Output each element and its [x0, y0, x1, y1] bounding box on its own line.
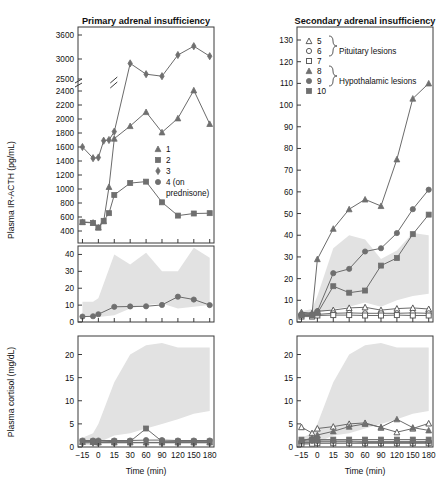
- legend-label-0: 1: [166, 145, 171, 154]
- normal-band-secondary-cortisol: [301, 343, 428, 445]
- y-label-primary: 600: [60, 213, 74, 222]
- y-secondary-acth-label: 30: [284, 253, 294, 262]
- x-primary-cortisol-label: 0: [96, 451, 101, 460]
- series-point-9: [331, 271, 336, 276]
- y-secondary-cortisol-label: 5: [288, 420, 293, 429]
- series-point-3: [96, 154, 100, 161]
- x-secondary-cortisol-label: 180: [422, 451, 436, 460]
- x-primary-cortisol-label: 90: [157, 451, 167, 460]
- series-point-2: [159, 200, 164, 205]
- series-point-8: [394, 156, 400, 162]
- series-point-7: [426, 313, 431, 318]
- x-primary-cortisol-label: −15: [76, 451, 90, 460]
- legend-marker-7: [307, 59, 312, 64]
- y-primary-cortisol-label: 10: [65, 397, 75, 406]
- legend-label-s5: 10: [317, 87, 327, 96]
- series-point-4 (on prednisone): [159, 302, 164, 307]
- legend-marker-2: [156, 158, 161, 163]
- y-secondary-cortisol-label: 15: [284, 374, 294, 383]
- y-label-primary: 1600: [56, 143, 75, 152]
- series-point-10: [394, 256, 399, 261]
- y-label-primary: 3600: [56, 31, 75, 40]
- series-point-2: [144, 426, 149, 431]
- series-point-2: [112, 192, 117, 197]
- series-point-9: [410, 207, 415, 212]
- series-point-10: [426, 437, 431, 442]
- y-label-primary: 2500: [56, 75, 75, 84]
- series-point-3: [192, 43, 196, 50]
- series-point-2: [101, 218, 106, 223]
- legend-label-1: 2: [166, 156, 171, 165]
- y-label-primary: 2200: [56, 101, 75, 110]
- series-point-8: [426, 80, 432, 86]
- series-point-3: [128, 60, 132, 67]
- y-primary-acth-low-label: 30: [65, 267, 75, 276]
- series-point-4 (on prednisone): [90, 438, 95, 443]
- y-secondary-acth-label: 60: [284, 188, 294, 197]
- legend-group-hypothalamic: Hypothalamic lesions: [339, 77, 416, 86]
- series-point-8: [346, 206, 352, 212]
- series-point-3: [101, 137, 105, 144]
- series-point-8: [378, 203, 384, 209]
- x-secondary-cortisol-label: 0: [315, 451, 320, 460]
- y-label-primary: 1000: [56, 185, 75, 194]
- y-label-primary: 2000: [56, 115, 75, 124]
- series-break-mark: [110, 77, 117, 83]
- y-label-primary: 3000: [56, 55, 75, 64]
- y-label-primary: 2400: [56, 87, 75, 96]
- y-secondary-acth-label: 110: [280, 79, 293, 88]
- yaxis-title-acth: Plasma IR-ACTH (pg/mL): [6, 141, 16, 239]
- y-secondary-acth-label: 80: [284, 144, 294, 153]
- series-point-4 (on prednisone): [191, 297, 196, 302]
- series-point-4 (on prednisone): [96, 438, 101, 443]
- y-secondary-acth-label: 10: [284, 296, 294, 305]
- series-point-8: [362, 196, 368, 202]
- x-secondary-cortisol-label: 150: [406, 451, 420, 460]
- series-point-4 (on prednisone): [128, 304, 133, 309]
- series-point-10: [299, 437, 304, 442]
- legend-label-s2: 7: [317, 57, 322, 66]
- y-secondary-cortisol-label: 10: [284, 397, 294, 406]
- series-point-2: [80, 220, 85, 225]
- series-point-4 (on prednisone): [90, 314, 95, 319]
- series-point-4 (on prednisone): [143, 304, 148, 309]
- legend-marker-10: [307, 89, 312, 94]
- series-point-10: [378, 263, 383, 268]
- y-secondary-acth-label: 100: [279, 101, 293, 110]
- series-point-4 (on prednisone): [80, 438, 85, 443]
- y-label-primary: 800: [60, 199, 74, 208]
- y-label-primary: 1400: [56, 157, 75, 166]
- figure-canvas: Primary adrenal insufficiency36003000250…: [0, 0, 442, 489]
- legend-marker-9: [306, 78, 311, 83]
- series-point-4 (on prednisone): [96, 312, 101, 317]
- x-primary-cortisol-label: 120: [171, 451, 185, 460]
- y-secondary-acth-label: 50: [284, 210, 294, 219]
- series-point-7: [410, 313, 415, 318]
- x-primary-cortisol-label: 180: [203, 451, 217, 460]
- x-secondary-cortisol-label: 30: [345, 451, 355, 460]
- series-point-4 (on prednisone): [143, 437, 148, 442]
- yaxis-title-cortisol: Plasma cortisol (mg/dL): [6, 347, 16, 437]
- series-point-5: [426, 420, 432, 426]
- x-secondary-cortisol-label: 120: [390, 451, 404, 460]
- legend-label-2: 3: [166, 167, 171, 176]
- legend-marker-6: [306, 48, 311, 53]
- series-point-10: [410, 437, 415, 442]
- series-point-2: [207, 211, 212, 216]
- series-point-10: [426, 212, 431, 217]
- legend-marker-8: [306, 68, 312, 74]
- y-primary-acth-low-label: 10: [65, 301, 75, 310]
- y-primary-acth-low-label: 20: [65, 284, 75, 293]
- xaxis-title-left: Time (min): [126, 466, 167, 476]
- series-point-5: [299, 424, 305, 430]
- y-secondary-cortisol-label: 0: [288, 443, 293, 452]
- y-primary-cortisol-label: 0: [69, 443, 74, 452]
- figure-root: Primary adrenal insufficiency36003000250…: [0, 0, 442, 489]
- legend-marker-1: [155, 146, 161, 152]
- legend-brace-hypothalamic: [329, 66, 337, 86]
- legend-group-pituitary: Pituitary lesions: [339, 47, 396, 56]
- series-point-4 (on prednisone): [175, 294, 180, 299]
- y-secondary-acth-label: 40: [284, 231, 294, 240]
- series-point-4 (on prednisone): [128, 438, 133, 443]
- series-point-9: [347, 266, 352, 271]
